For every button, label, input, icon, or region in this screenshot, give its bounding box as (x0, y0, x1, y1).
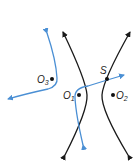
label-o3: O3 (37, 74, 49, 86)
hyperbola-diagram: O3 O1 O2 S (0, 0, 140, 167)
label-o2: O2 (116, 90, 128, 102)
label-s: S (100, 65, 107, 76)
point-s (105, 77, 109, 81)
point-o2 (111, 93, 115, 97)
ray-o3 (8, 33, 57, 99)
label-o1: O1 (63, 90, 75, 102)
point-o3 (50, 77, 54, 81)
point-o1 (77, 93, 81, 97)
